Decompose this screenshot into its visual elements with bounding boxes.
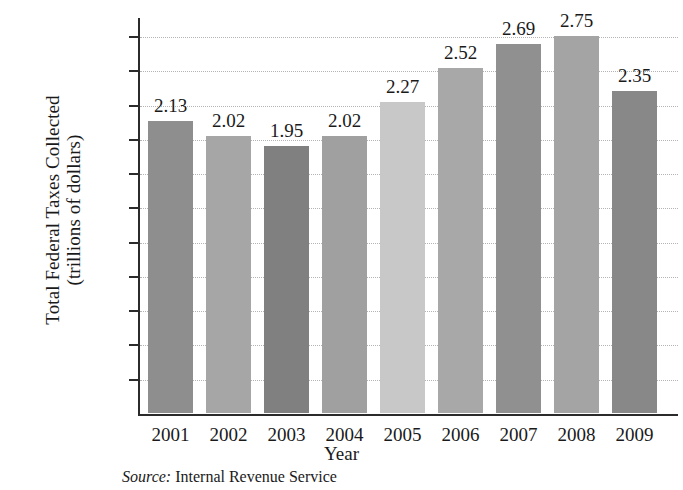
y-axis-title-line-1: Total Federal Taxes Collected — [42, 95, 63, 324]
bar-value-label-2005: 2.27 — [368, 76, 437, 98]
bar-2004 — [322, 136, 367, 413]
y-axis-title: Total Federal Taxes Collected (trillions… — [35, 45, 91, 375]
y-axis-tick — [129, 207, 140, 209]
y-axis-tick — [129, 36, 140, 38]
bar-2008 — [554, 36, 599, 413]
y-axis-line — [138, 18, 140, 416]
y-axis-tick — [129, 310, 140, 312]
bar-value-label-2008: 2.75 — [542, 10, 611, 32]
y-axis-tick — [129, 379, 140, 381]
bar-2009 — [612, 91, 657, 413]
bar-value-label-2006: 2.52 — [426, 42, 495, 64]
bar-2006 — [438, 68, 483, 413]
bar-2001 — [148, 121, 193, 413]
source-text: Internal Revenue Service — [175, 468, 337, 485]
bar-2005 — [380, 102, 425, 413]
x-axis-line — [138, 414, 678, 416]
y-axis-title-line-2: (trillions of dollars) — [63, 135, 84, 286]
y-axis-tick — [129, 242, 140, 244]
bar-chart-figure: Total Federal Taxes Collected (trillions… — [0, 0, 683, 490]
y-axis-tick — [129, 173, 140, 175]
bar-2003 — [264, 146, 309, 413]
source-note: Source: Internal Revenue Service — [122, 468, 337, 486]
y-axis-tick — [129, 139, 140, 141]
y-axis-tick — [129, 276, 140, 278]
bar-value-label-2004: 2.02 — [310, 110, 379, 132]
source-prefix: Source: — [122, 468, 171, 485]
y-axis-tick — [129, 344, 140, 346]
bar-value-label-2009: 2.35 — [600, 65, 669, 87]
y-axis-tick — [129, 70, 140, 72]
bar-2007 — [496, 44, 541, 413]
plot-area: $0.25$0.50$0.75$1.00$1.25$1.50$1.75$2.00… — [138, 18, 678, 415]
bar-2002 — [206, 136, 251, 413]
x-axis-title: Year — [0, 443, 683, 465]
